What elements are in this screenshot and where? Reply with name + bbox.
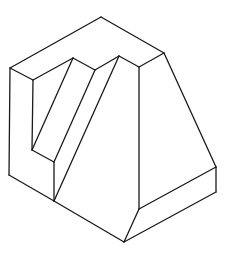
isometric-solid-drawing bbox=[0, 0, 229, 253]
edge-F-G bbox=[73, 58, 95, 70]
edge-P-M bbox=[124, 192, 216, 242]
edge-C-D bbox=[139, 53, 164, 67]
edge-A-B bbox=[10, 17, 101, 68]
edge-G-H bbox=[33, 58, 73, 80]
edge-D-E bbox=[119, 56, 139, 67]
edge-G-I bbox=[32, 58, 73, 150]
edge-C-O bbox=[164, 53, 216, 167]
edge-H-I bbox=[32, 80, 33, 150]
edge-H-A bbox=[10, 68, 33, 80]
edge-L-M bbox=[54, 201, 124, 242]
edge-O-N bbox=[139, 167, 216, 209]
edge-B-C bbox=[101, 17, 164, 53]
isometric-drawing-canvas bbox=[0, 0, 229, 253]
edge-F-J bbox=[54, 70, 95, 162]
drawing-edges bbox=[9, 17, 216, 242]
edge-K-L bbox=[9, 175, 54, 201]
edge-M-N bbox=[124, 209, 139, 242]
edge-A-K bbox=[9, 68, 10, 175]
edge-I-J bbox=[32, 150, 54, 162]
